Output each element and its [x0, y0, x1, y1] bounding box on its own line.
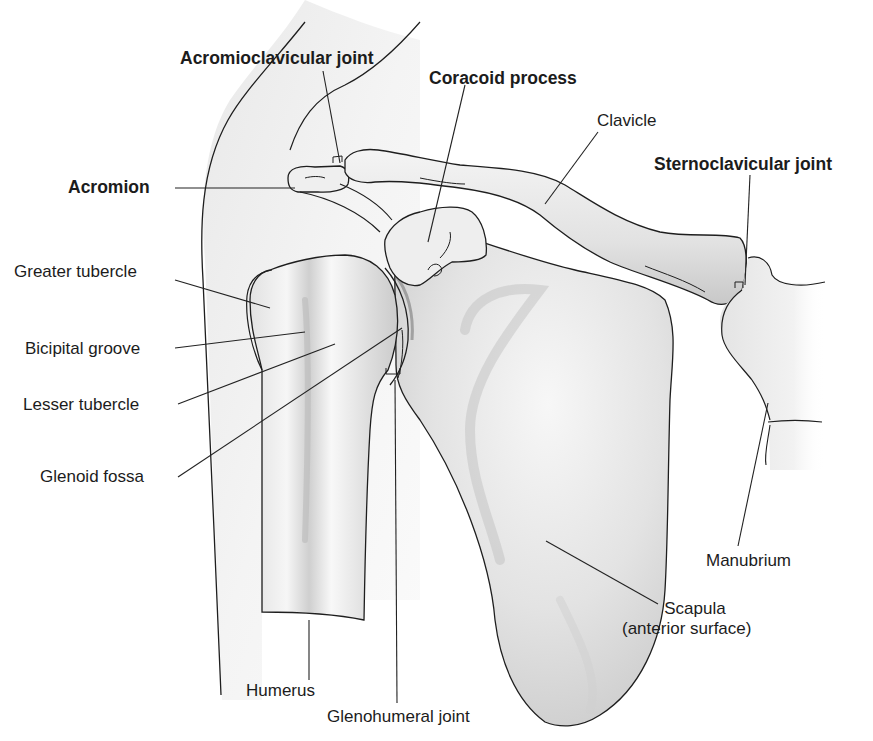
label-scapula-line1: Scapula [640, 599, 750, 619]
label-clavicle: Clavicle [597, 111, 657, 131]
label-greater-tubercle: Greater tubercle [14, 262, 137, 282]
label-scapula-line2: (anterior surface) [622, 619, 751, 639]
label-coracoid-process: Coracoid process [429, 68, 577, 88]
label-acromion: Acromion [68, 177, 150, 197]
label-humerus: Humerus [246, 681, 315, 701]
label-glenoid-fossa: Glenoid fossa [40, 467, 144, 487]
label-acromioclavicular-joint: Acromioclavicular joint [180, 48, 374, 68]
label-lesser-tubercle: Lesser tubercle [23, 395, 139, 415]
label-scapula: Scapula [640, 599, 750, 619]
label-manubrium: Manubrium [706, 551, 791, 571]
anatomy-figure: Acromioclavicular joint Coracoid process… [0, 0, 873, 741]
label-bicipital-groove: Bicipital groove [25, 339, 140, 359]
acromion-shape [288, 166, 349, 192]
label-sternoclavicular-joint: Sternoclavicular joint [654, 154, 832, 174]
label-glenohumeral-joint: Glenohumeral joint [327, 707, 470, 727]
